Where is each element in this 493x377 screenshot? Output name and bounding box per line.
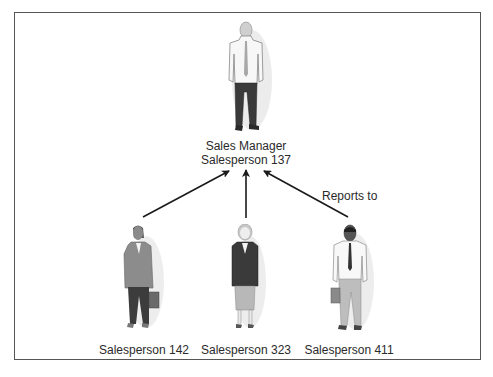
businesswoman-dark-jacket-skirt-icon xyxy=(228,224,268,332)
businesswoman-gray-suit-briefcase-icon xyxy=(120,224,166,332)
edge-label-reports-to: Reports to xyxy=(322,189,382,203)
subordinate-name-411: Salesperson 411 xyxy=(299,343,399,357)
subordinate-name-323: Salesperson 323 xyxy=(196,343,296,357)
manager-title: Sales Manager xyxy=(196,139,296,153)
manager-name: Salesperson 137 xyxy=(186,153,306,167)
subordinate-name-142: Salesperson 142 xyxy=(94,343,194,357)
businessman-white-shirt-tie-icon xyxy=(222,20,274,136)
arrow-142-to-137 xyxy=(143,171,229,217)
businessman-tie-briefcase-icon xyxy=(330,224,376,334)
